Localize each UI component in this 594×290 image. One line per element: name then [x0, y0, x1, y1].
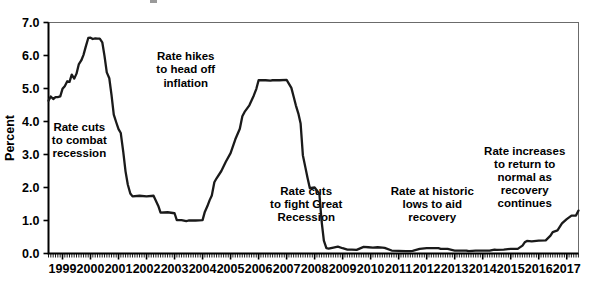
x-tick-label: 2009 — [329, 262, 357, 276]
x-axis-tick-labels: 1999200020012002200320042005200620072008… — [49, 262, 581, 276]
x-tick-label: 2005 — [217, 262, 245, 276]
annotation-line: to fight Great — [270, 198, 342, 210]
annotation-line: Recession — [277, 211, 335, 223]
annotation-line: inflation — [163, 77, 208, 89]
x-tick-label: 2012 — [413, 262, 441, 276]
annotation-line: recession — [52, 147, 106, 159]
y-axis-title: Percent — [3, 114, 17, 161]
y-tick-label: 3.0 — [22, 148, 39, 162]
y-tick-label: 5.0 — [22, 82, 39, 96]
x-tick-label: 2011 — [385, 262, 412, 276]
annotation-rate-hikes-inflation: Rate hikesto head offinflation — [156, 50, 215, 88]
chart-container: 0.01.02.03.04.05.06.07.0 199920002001200… — [0, 0, 594, 290]
annotation-line: to return to — [494, 158, 555, 170]
x-tick-label: 2001 — [105, 262, 133, 276]
annotation-rate-cuts-great-recession: Rate cutsto fight GreatRecession — [270, 185, 342, 223]
y-tick-label: 4.0 — [22, 115, 39, 129]
y-tick-label: 0.0 — [22, 247, 39, 261]
x-tick-label: 2014 — [469, 262, 497, 276]
annotation-line: recovery — [408, 211, 457, 223]
x-tick-label: 2015 — [497, 262, 525, 276]
y-tick-label: 6.0 — [22, 49, 39, 63]
x-tick-label: 2017 — [553, 262, 581, 276]
annotation-line: to combat — [52, 134, 107, 146]
annotation-line: to head off — [156, 63, 215, 75]
x-tick-label: 2010 — [357, 262, 385, 276]
x-tick-label: 2008 — [301, 262, 329, 276]
x-tick-label: 2016 — [525, 262, 553, 276]
annotation-line: Rate cuts — [280, 185, 332, 197]
x-tick-label: 1999 — [49, 262, 77, 276]
annotation-line: recovery — [501, 184, 550, 196]
x-tick-label: 2003 — [161, 262, 189, 276]
x-tick-label: 2006 — [245, 262, 273, 276]
line-chart: 0.01.02.03.04.05.06.07.0 199920002001200… — [0, 0, 594, 290]
annotation-line: Rate increases — [484, 145, 565, 157]
annotation-line: normal as — [498, 171, 552, 183]
x-tick-label: 2004 — [189, 262, 217, 276]
cropped-title-remnant — [150, 0, 157, 3]
annotation-line: Rate cuts — [53, 121, 105, 133]
annotation-line: Rate hikes — [157, 50, 215, 62]
x-tick-label: 2000 — [77, 262, 105, 276]
x-tick-label: 2007 — [273, 262, 301, 276]
y-tick-label: 1.0 — [22, 214, 39, 228]
y-tick-label: 2.0 — [22, 181, 39, 195]
annotation-line: lows to aid — [403, 198, 462, 210]
x-tick-label: 2013 — [441, 262, 469, 276]
annotation-line: continues — [498, 197, 552, 209]
x-tick-label: 2002 — [133, 262, 161, 276]
annotation-line: Rate at historic — [391, 185, 475, 197]
y-tick-label: 7.0 — [22, 16, 39, 30]
annotation-rate-cuts-recession: Rate cutsto combatrecession — [52, 121, 107, 159]
